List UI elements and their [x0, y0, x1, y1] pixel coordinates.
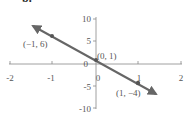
y-tick-label: 0	[84, 59, 89, 69]
y-tick-label: -10	[79, 104, 91, 114]
x-axis: -2 -1 0 1 2	[6, 61, 183, 83]
x-tick-label: -2	[6, 73, 14, 83]
y-tick-label: 5	[87, 36, 92, 46]
point-annotation: (0, 1)	[97, 51, 117, 61]
line-chart: -2 -1 0 1 2 10 5 0 -5 -10 (−1, 6) (0, 1)…	[0, 0, 189, 118]
x-tick-label: -1	[47, 73, 55, 83]
x-tick-label: 2	[179, 73, 184, 83]
x-tick-label: 0	[96, 73, 101, 83]
point-annotation: (−1, 6)	[23, 39, 48, 49]
point-annotation: (1, −4)	[116, 88, 141, 98]
y-tick-label: -5	[84, 82, 92, 92]
data-point	[136, 81, 140, 85]
data-point	[50, 34, 54, 38]
y-tick-label: 10	[82, 14, 92, 24]
